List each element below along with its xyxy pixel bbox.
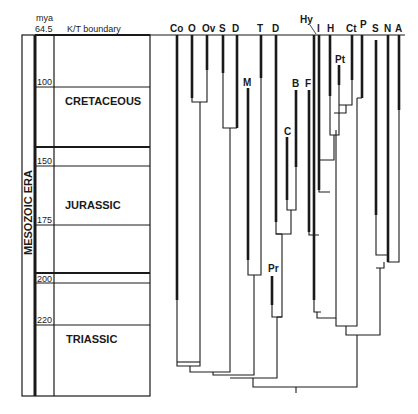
taxon-label-o: O: [188, 23, 196, 34]
taxon-label-ov: Ov: [202, 23, 216, 34]
taxon-label-m: M: [243, 77, 251, 88]
clade-c-b: [287, 167, 296, 210]
tick-label-200: 200: [37, 274, 52, 284]
taxon-label-t: T: [257, 23, 263, 34]
period-cretaceous: CRETACEOUS: [65, 95, 141, 107]
taxon-label-s2: S: [372, 23, 379, 34]
join-m-t: [213, 275, 254, 375]
clade-d2: [276, 222, 282, 234]
taxon-label-n: N: [384, 23, 391, 34]
hy-pointer: [310, 25, 316, 34]
root-join: [253, 335, 357, 387]
clade-i: [319, 190, 330, 192]
tree-branches: [177, 70, 399, 393]
taxon-label-d: D: [232, 23, 239, 34]
branch-d2-cb: [277, 234, 282, 317]
taxon-label-h: H: [327, 23, 334, 34]
taxon-label-b: B: [292, 78, 299, 89]
period-triassic: TRIASSIC: [66, 333, 117, 345]
mesozoic-phylogeny-diagram: mya 64.5 K/T boundary 100 150 175 200 22…: [0, 0, 418, 414]
taxon-label-hy: Hy: [300, 14, 313, 25]
tick-label-175: 175: [37, 215, 52, 225]
period-jurassic: JURASSIC: [65, 199, 121, 211]
taxon-label-c: C: [284, 126, 291, 137]
taxon-label-s: S: [219, 23, 226, 34]
tick-label-220: 220: [37, 315, 52, 325]
clade-hy: [314, 300, 321, 312]
top-value-label: 64.5: [35, 24, 53, 34]
clade-o-ov: [192, 70, 207, 102]
clade-h-pt: [330, 85, 339, 135]
join-d2-cb: [276, 210, 291, 234]
branch-s-n-a: [346, 268, 380, 335]
taxon-label-d2: D: [272, 23, 279, 34]
clade-m-t: [248, 78, 261, 275]
fossil-range-bars: [177, 35, 399, 305]
tick-label-150: 150: [37, 156, 52, 166]
join-1: [190, 366, 230, 372]
unit-label: mya: [36, 13, 53, 23]
join-p: [336, 98, 362, 326]
clade-s-d: [223, 73, 237, 128]
taxon-label-p: P: [360, 19, 367, 30]
era-label: MESOZOIC ERA: [22, 170, 34, 255]
tick-label-100: 100: [37, 77, 52, 87]
clade-pt-ct: [339, 80, 352, 105]
join-n-a: [376, 262, 384, 268]
join-pt-ct: [334, 105, 346, 113]
kt-boundary-label: K/T boundary: [67, 24, 121, 34]
taxon-label-pr: Pr: [268, 263, 279, 274]
taxon-label-co: Co: [170, 23, 183, 34]
clade-pr: [272, 305, 282, 317]
taxon-label-f: F: [305, 78, 311, 89]
taxon-label-ct: Ct: [346, 23, 357, 34]
branch-o-ov: [177, 102, 200, 366]
branch-h-pt: [319, 135, 334, 160]
taxon-label-pt: Pt: [335, 54, 346, 65]
taxon-label-a: A: [395, 23, 402, 34]
taxon-label-i: I: [317, 23, 320, 34]
